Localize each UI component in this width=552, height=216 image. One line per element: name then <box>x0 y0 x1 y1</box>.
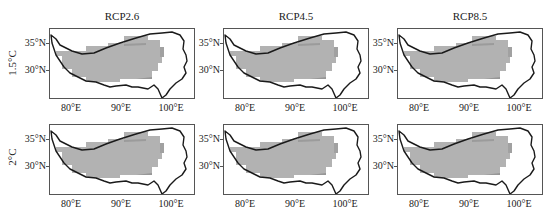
y-tick-mark <box>46 139 49 140</box>
x-tick-label: 100°E <box>151 198 191 209</box>
y-tick-label: 30°N <box>10 160 46 171</box>
x-tick-label: 80°E <box>225 198 265 209</box>
x-tick-label: 100°E <box>151 102 191 113</box>
x-tick-label: 90°E <box>449 198 489 209</box>
y-tick-mark <box>220 43 223 44</box>
y-tick-mark <box>46 43 49 44</box>
y-tick-mark <box>394 70 397 71</box>
x-tick-label: 100°E <box>499 198 539 209</box>
y-tick-label: 30°N <box>184 64 220 75</box>
y-tick-label: 35°N <box>184 133 220 144</box>
x-tick-label: 90°E <box>275 198 315 209</box>
map-panel <box>49 124 195 195</box>
map-panel <box>223 124 369 195</box>
x-tick-label: 80°E <box>51 198 91 209</box>
y-tick-label: 35°N <box>10 133 46 144</box>
y-tick-label: 30°N <box>184 160 220 171</box>
map-panel <box>223 28 369 99</box>
y-tick-mark <box>220 70 223 71</box>
column-title-rcp26: RCP2.6 <box>49 10 195 22</box>
x-tick-label: 80°E <box>399 102 439 113</box>
y-tick-label: 30°N <box>10 64 46 75</box>
x-tick-label: 90°E <box>449 102 489 113</box>
y-tick-label: 35°N <box>358 133 394 144</box>
y-tick-mark <box>46 70 49 71</box>
column-title-rcp45: RCP4.5 <box>223 10 369 22</box>
map-panel <box>49 28 195 99</box>
y-tick-mark <box>220 166 223 167</box>
x-tick-label: 80°E <box>399 198 439 209</box>
map-panel <box>397 124 543 195</box>
x-tick-label: 100°E <box>325 198 365 209</box>
y-tick-mark <box>46 166 49 167</box>
y-tick-label: 35°N <box>10 37 46 48</box>
x-tick-label: 100°E <box>325 102 365 113</box>
y-tick-label: 30°N <box>358 160 394 171</box>
y-tick-mark <box>394 139 397 140</box>
x-tick-label: 80°E <box>51 102 91 113</box>
map-panel <box>397 28 543 99</box>
row-label-1-5c: 1.5°C <box>6 43 18 83</box>
y-tick-label: 35°N <box>358 37 394 48</box>
x-tick-label: 90°E <box>101 198 141 209</box>
x-tick-label: 80°E <box>225 102 265 113</box>
x-tick-label: 90°E <box>275 102 315 113</box>
y-tick-label: 30°N <box>358 64 394 75</box>
y-tick-mark <box>394 166 397 167</box>
x-tick-label: 90°E <box>101 102 141 113</box>
column-title-rcp85: RCP8.5 <box>397 10 543 22</box>
x-tick-label: 100°E <box>499 102 539 113</box>
y-tick-mark <box>220 139 223 140</box>
y-tick-label: 35°N <box>184 37 220 48</box>
y-tick-mark <box>394 43 397 44</box>
